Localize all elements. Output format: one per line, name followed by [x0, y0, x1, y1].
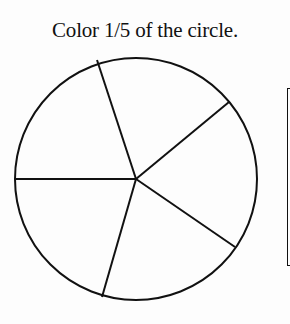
fraction-circle [0, 0, 290, 324]
answer-box[interactable] [287, 88, 290, 266]
